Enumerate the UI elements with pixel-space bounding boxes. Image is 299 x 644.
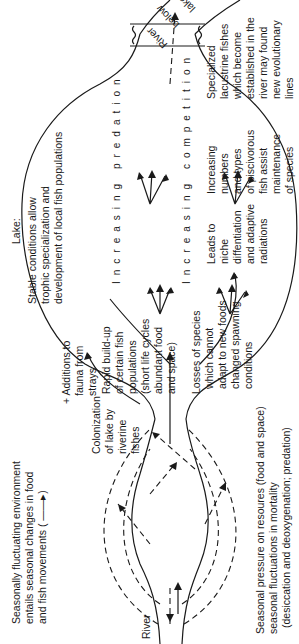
river-inflow	[104, 352, 236, 644]
svg-text:populations: populations	[126, 340, 138, 394]
losses-text: Losses of species which cannot adapt to …	[190, 300, 254, 394]
svg-text:riverine: riverine	[116, 419, 128, 454]
svg-text:which become: which become	[231, 32, 243, 100]
svg-text:fish assist: fish assist	[257, 148, 269, 194]
river-below-lake-label: River below lake	[143, 0, 197, 51]
river-inflow-label: River	[140, 614, 152, 639]
svg-text:Seasonal pressure on resoures: Seasonal pressure on resoures (food and …	[254, 406, 266, 634]
svg-text:established in the: established in the	[244, 17, 256, 99]
svg-text:Losses of species: Losses of species	[190, 311, 202, 394]
seasonal-pressure-text: Seasonal pressure on resoures (food and …	[254, 406, 292, 634]
svg-text:abundant food: abundant food	[152, 327, 164, 394]
svg-text:niche: niche	[218, 239, 230, 264]
colonization-text: Colonization of lake by riverine fishes	[90, 396, 141, 454]
svg-text:(desiccation and deoxygenation: (desiccation and deoxygenation; predatio…	[280, 427, 292, 628]
svg-text:trophic specialization and: trophic specialization and	[39, 186, 51, 304]
svg-text:of certain fish: of certain fish	[113, 331, 125, 394]
svg-text:and fish movements ( ——▸): and fish movements ( ——▸)	[36, 490, 48, 624]
lake-text: Lake: Stable conditions allow trophic sp…	[10, 132, 64, 304]
svg-text:numbers: numbers	[218, 153, 230, 194]
svg-text:strays: strays	[86, 368, 98, 396]
svg-text:maintenance: maintenance	[270, 134, 282, 194]
svg-text:of species: of species	[283, 147, 295, 194]
svg-text:diffentiation: diffentiation	[231, 210, 243, 264]
rapid-buildup-text: Rapid build-up of certain fish populatio…	[100, 319, 177, 394]
svg-text:of lake by: of lake by	[103, 408, 115, 454]
svg-text:conditions: conditions	[242, 342, 254, 389]
increasing-competition-label: Increasing competition	[181, 52, 192, 284]
svg-text:new evolutionary: new evolutionary	[270, 19, 282, 99]
svg-text:Seasonally fluctuating environ: Seasonally fluctuating environment	[10, 461, 22, 624]
svg-text:(short life cycles: (short life cycles	[139, 319, 151, 394]
svg-text:entails seasonal changes in fo: entails seasonal changes in food	[23, 471, 35, 624]
svg-text:and adaptive: and adaptive	[244, 204, 256, 264]
piscivorous-text: Increasing numbers and types of piscivor…	[205, 130, 295, 194]
svg-text:and types: and types	[231, 148, 243, 194]
increasing-predation-label: Increasing predation	[111, 73, 122, 284]
svg-text:Stable conditions allow: Stable conditions allow	[26, 197, 38, 304]
svg-text:River: River	[143, 25, 169, 51]
svg-text:Rapid build-up: Rapid build-up	[100, 326, 112, 394]
svg-text:Increasing: Increasing	[205, 145, 217, 194]
svg-text:Specialized: Specialized	[205, 45, 217, 99]
arrow-icon	[166, 614, 174, 622]
seasonal-environment-text: Seasonally fluctuating environment entai…	[10, 461, 48, 624]
svg-text:Colonization: Colonization	[90, 396, 102, 454]
svg-text:adapt to new foods: adapt to new foods	[216, 300, 228, 389]
svg-text:lake: lake	[175, 0, 197, 15]
svg-text:and space): and space)	[165, 342, 177, 394]
svg-text:seasonal fluctuations in morta: seasonal fluctuations in mortality	[267, 482, 279, 634]
svg-text:fishes: fishes	[129, 427, 141, 454]
svg-text:+ Additions to: + Additions to	[60, 341, 72, 404]
leads-to-text: Leads to niche diffentiation and adaptiv…	[205, 204, 269, 264]
specialized-text: Specialized lacustrine fishes which beco…	[205, 17, 295, 100]
svg-text:Lake:: Lake:	[10, 218, 22, 244]
lake-colonization-diagram: River	[0, 0, 299, 644]
svg-text:which cannot: which cannot	[203, 328, 215, 390]
svg-text:Leads to: Leads to	[205, 224, 217, 264]
svg-text:of piscivorous: of piscivorous	[244, 130, 256, 194]
svg-text:lacustrine fishes: lacustrine fishes	[218, 24, 230, 99]
svg-text:fauna from: fauna from	[73, 346, 85, 396]
svg-text:radiations: radiations	[257, 218, 269, 264]
svg-text:changed spawning: changed spawning	[229, 301, 241, 389]
svg-text:lines: lines	[283, 77, 295, 99]
svg-text:river may found: river may found	[257, 26, 269, 99]
svg-text:development of local fish popu: development of local fish populations	[52, 132, 64, 304]
additions-text: + Additions to fauna from strays	[60, 341, 98, 404]
